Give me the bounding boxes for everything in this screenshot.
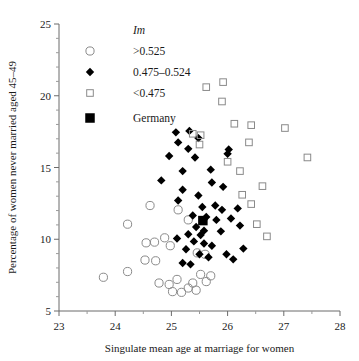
- data-point: [264, 233, 271, 240]
- data-point: [246, 139, 253, 146]
- data-point: [200, 239, 208, 247]
- data-point: [186, 260, 194, 268]
- data-point: [99, 273, 107, 281]
- x-tick-label: 23: [54, 320, 66, 332]
- data-point: [202, 277, 210, 285]
- series-open-circle: [99, 201, 215, 296]
- data-point: [282, 125, 289, 132]
- data-point: [161, 234, 169, 242]
- data-point: [182, 245, 190, 253]
- legend-marker-filled-diamond: [86, 68, 94, 76]
- series-filled-square: [198, 216, 208, 226]
- legend-label: <0.475: [133, 87, 166, 99]
- data-point: [192, 286, 200, 294]
- data-point: [157, 176, 165, 184]
- y-tick-label: 15: [40, 162, 52, 174]
- data-point: [239, 244, 247, 252]
- data-point: [217, 227, 225, 235]
- data-point: [168, 288, 176, 296]
- data-point: [184, 145, 192, 153]
- data-point: [190, 237, 198, 245]
- data-point: [254, 221, 261, 228]
- data-point: [197, 270, 205, 278]
- data-point: [237, 168, 244, 175]
- data-point: [178, 186, 186, 194]
- data-point: [123, 267, 131, 275]
- legend-label: Germany: [133, 112, 176, 125]
- data-point: [239, 191, 246, 198]
- data-point: [142, 239, 150, 247]
- x-tick-label: 27: [278, 320, 290, 332]
- data-point: [218, 206, 226, 214]
- x-tick-label: 25: [166, 320, 178, 332]
- y-tick-label: 5: [46, 305, 52, 317]
- data-point: [229, 255, 237, 263]
- data-point: [220, 79, 227, 86]
- x-tick-label: 26: [222, 320, 234, 332]
- data-point: [174, 138, 182, 146]
- data-point: [166, 242, 174, 250]
- data-point: [173, 275, 181, 283]
- legend-label: 0.475–0.524: [133, 66, 191, 78]
- x-tick-label: 24: [110, 320, 122, 332]
- data-point: [165, 152, 173, 160]
- data-point: [207, 272, 215, 280]
- data-point: [174, 196, 182, 204]
- data-point: [173, 234, 181, 242]
- data-point: [211, 201, 219, 209]
- y-tick-label: 25: [40, 18, 52, 30]
- data-point: [208, 178, 216, 186]
- axes-group: 510152025232425262728: [40, 18, 346, 332]
- data-point: [196, 141, 203, 148]
- x-tick-label: 28: [335, 320, 347, 332]
- data-point: [227, 214, 235, 222]
- data-point: [208, 242, 216, 250]
- data-point: [212, 216, 220, 224]
- chart-legend: Im>0.5250.475–0.524<0.475Germany: [85, 24, 191, 125]
- data-point: [219, 183, 227, 191]
- scatter-chart-figure: 510152025232425262728 Im>0.5250.475–0.52…: [0, 0, 359, 361]
- data-point: [234, 204, 242, 212]
- data-point: [248, 201, 255, 208]
- data-point: [146, 201, 154, 209]
- data-point: [178, 259, 186, 267]
- data-points-group: [99, 79, 310, 297]
- y-axis-title: Percentage of women never married aged 4…: [6, 60, 18, 274]
- y-tick-label: 10: [40, 233, 52, 245]
- data-point: [198, 216, 208, 226]
- data-point: [259, 183, 266, 190]
- data-point: [231, 120, 238, 127]
- data-point: [198, 203, 206, 211]
- data-point: [204, 253, 212, 261]
- data-point: [203, 84, 210, 91]
- data-point: [184, 230, 192, 238]
- data-point: [189, 211, 197, 219]
- data-point: [207, 165, 215, 173]
- chart-canvas: 510152025232425262728 Im>0.5250.475–0.52…: [0, 0, 359, 361]
- data-point: [236, 221, 244, 229]
- legend-marker-open-square: [87, 90, 94, 97]
- data-point: [150, 238, 158, 246]
- data-point: [194, 191, 202, 199]
- data-point: [178, 167, 186, 175]
- data-point: [123, 220, 131, 228]
- y-tick-label: 20: [40, 90, 52, 102]
- data-point: [174, 206, 182, 214]
- legend-title: Im: [132, 24, 145, 36]
- data-point: [222, 250, 230, 258]
- data-point: [172, 128, 180, 136]
- data-point: [219, 98, 226, 105]
- data-point: [141, 256, 149, 264]
- data-point: [248, 122, 255, 129]
- legend-label: >0.525: [133, 45, 166, 57]
- legend-marker-filled-square: [85, 113, 95, 123]
- legend-marker-open-circle: [86, 47, 94, 55]
- data-point: [191, 153, 199, 161]
- data-point: [152, 257, 160, 265]
- data-point: [155, 279, 163, 287]
- data-point: [184, 284, 192, 292]
- data-point: [304, 154, 311, 161]
- x-axis-title: Singulate mean age at marriage for women: [105, 342, 295, 354]
- data-point: [224, 158, 231, 165]
